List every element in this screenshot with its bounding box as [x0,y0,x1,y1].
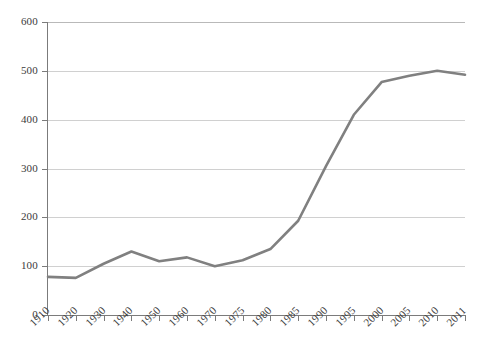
y-tick-label-400: 400 [4,114,38,125]
x-tick-mark-1990 [326,316,327,321]
x-tick-mark-2011 [465,316,466,321]
y-tick-label-300: 300 [4,163,38,174]
y-tick-label-100: 100 [4,260,38,271]
x-tick-mark-1950 [159,316,160,321]
gridline-600 [48,22,465,23]
x-tick-mark-1975 [243,316,244,321]
gridline-100 [48,266,465,267]
x-tick-mark-1985 [298,316,299,321]
y-tick-mark-100 [42,266,48,267]
y-tick-mark-500 [42,71,48,72]
y-tick-label-600: 600 [4,16,38,27]
x-tick-mark-1960 [187,316,188,321]
x-tick-mark-2000 [382,316,383,321]
x-tick-mark-1920 [76,316,77,321]
x-tick-mark-1970 [215,316,216,321]
y-tick-mark-600 [42,22,48,23]
x-tick-mark-1980 [270,316,271,321]
gridline-400 [48,120,465,121]
x-tick-mark-1910 [48,316,49,321]
x-tick-mark-1930 [104,316,105,321]
y-tick-label-200: 200 [4,211,38,222]
line-chart: 0100200300400500600 19101920193019401950… [0,0,483,359]
plot-area [48,22,465,315]
gridline-500 [48,71,465,72]
x-tick-mark-1940 [131,316,132,321]
x-tick-mark-2005 [409,316,410,321]
y-tick-mark-300 [42,169,48,170]
x-tick-mark-1995 [354,316,355,321]
gridline-300 [48,169,465,170]
y-tick-label-500: 500 [4,65,38,76]
x-tick-mark-2010 [437,316,438,321]
y-tick-mark-400 [42,120,48,121]
y-tick-mark-200 [42,217,48,218]
gridline-200 [48,217,465,218]
